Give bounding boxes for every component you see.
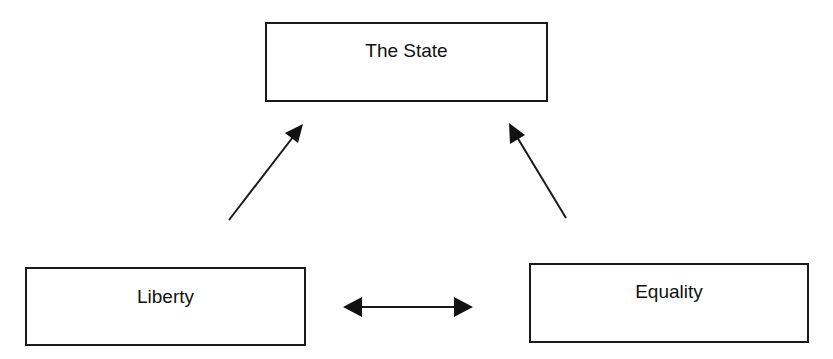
arrowhead-left-icon (343, 297, 362, 317)
arrowhead-right-icon (454, 297, 473, 317)
arrowhead-icon (509, 123, 525, 144)
arrow-equality-to-state (509, 123, 566, 218)
edges-layer (0, 0, 833, 359)
arrow-liberty-to-state (229, 124, 303, 220)
arrowhead-icon (285, 124, 303, 143)
arrow-liberty-equality-bidirectional (343, 297, 473, 317)
